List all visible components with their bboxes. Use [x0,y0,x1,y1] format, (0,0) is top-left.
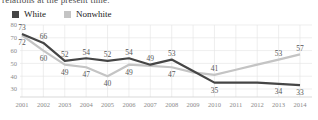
y-tick-label: 60 [11,47,18,54]
nonwhite-point-label: 49 [125,68,133,77]
x-tick-label: 2013 [272,101,285,108]
white-point-label: 54 [82,48,90,57]
y-tick-label: 50 [11,60,18,67]
nonwhite-point-label: 53 [275,49,283,58]
y-tick-label: 40 [11,73,18,80]
legend-item-nonwhite: Nonwhite [64,9,112,19]
nonwhite-swatch-icon [64,11,71,18]
x-tick-label: 2012 [251,101,264,108]
white-swatch-icon [12,11,19,18]
legend-label-nonwhite: Nonwhite [76,9,112,19]
x-tick-label: 2010 [208,101,221,108]
legend-label-white: White [24,9,46,19]
x-tick-label: 2006 [122,101,136,108]
y-tick-label: 80 [11,21,18,28]
white-point-label: 73 [18,23,26,32]
x-tick-label: 2002 [37,101,50,108]
white-point-label: 35 [211,86,219,95]
white-point-label: 54 [125,48,133,57]
x-tick-label: 2008 [165,101,178,108]
x-tick-label: 2001 [16,101,29,108]
nonwhite-point-label: 57 [296,44,304,53]
x-tick-label: 2014 [294,101,308,108]
nonwhite-point-label: 47 [82,70,90,79]
nonwhite-point-label: 47 [168,70,176,79]
white-point-label: 49 [147,54,155,63]
x-tick-label: 2009 [187,101,200,108]
legend: White Nonwhite [12,9,112,19]
x-tick-label: 2005 [101,101,114,108]
x-tick-label: 2004 [80,101,94,108]
white-point-label: 34 [275,87,283,96]
y-tick-label: 70 [11,34,18,41]
y-tick-label: 30 [11,85,18,92]
legend-item-white: White [12,9,46,19]
nonwhite-point-label: 41 [211,64,219,73]
white-series-line [22,34,300,85]
x-tick-label: 2007 [144,101,158,108]
nonwhite-point-label: 49 [61,68,69,77]
white-point-label: 52 [61,50,69,59]
white-point-label: 33 [296,88,304,97]
white-point-label: 52 [104,50,112,59]
white-point-label: 66 [40,32,48,41]
white-point-label: 53 [168,49,176,58]
nonwhite-point-label: 60 [40,54,48,63]
nonwhite-point-label: 72 [18,38,26,47]
x-tick-label: 2003 [58,101,71,108]
x-tick-label: 2011 [229,101,242,108]
nonwhite-point-label: 40 [104,79,112,88]
